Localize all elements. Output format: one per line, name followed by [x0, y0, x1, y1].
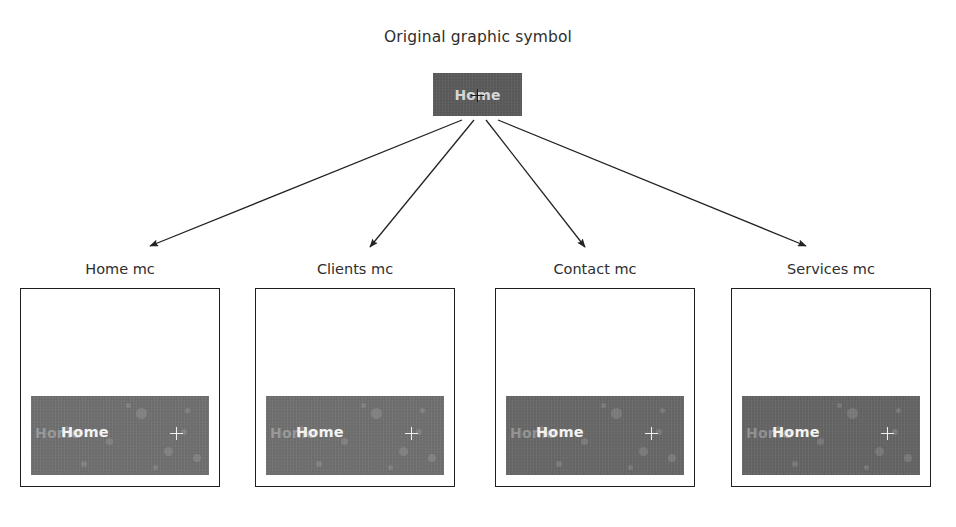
bubble-decoration: [136, 408, 147, 419]
bubble-decoration: [371, 408, 382, 419]
instance-panel-clients-mc[interactable]: Home Home: [255, 288, 455, 487]
crosshair-icon: [170, 427, 183, 440]
bubble-decoration: [153, 465, 158, 470]
bubble-decoration: [896, 408, 901, 413]
bubble-decoration: [81, 461, 87, 467]
bubble-decoration: [601, 403, 606, 408]
arrow-to-services-mc: [498, 120, 806, 246]
bubble-decoration: [399, 447, 408, 456]
band-label: Home: [61, 424, 109, 440]
bubble-decoration: [792, 461, 798, 467]
instance-label-home-mc: Home mc: [20, 261, 220, 277]
crosshair-icon: [881, 427, 894, 440]
page-title: Original graphic symbol: [0, 28, 956, 46]
panel-band: Home Home: [31, 396, 209, 475]
bubble-decoration: [126, 403, 131, 408]
bubble-decoration: [847, 408, 858, 419]
bubble-decoration: [875, 447, 884, 456]
bubble-decoration: [193, 454, 201, 462]
bubble-decoration: [556, 461, 562, 467]
bubble-decoration: [164, 447, 173, 456]
bubble-decoration: [904, 454, 912, 462]
bubble-decoration: [185, 408, 190, 413]
instance-label-services-mc: Services mc: [731, 261, 931, 277]
bubble-decoration: [660, 408, 665, 413]
bubble-decoration: [864, 465, 869, 470]
source-graphic-symbol[interactable]: Home: [433, 73, 522, 116]
panel-band: Home Home: [742, 396, 920, 475]
instance-panel-contact-mc[interactable]: Home Home: [495, 288, 695, 487]
panel-band: Home Home: [266, 396, 444, 475]
crosshair-icon: [471, 89, 484, 102]
crosshair-icon: [405, 427, 418, 440]
arrow-to-contact-mc: [486, 120, 585, 247]
bubble-decoration: [837, 403, 842, 408]
arrow-to-home-mc: [150, 120, 462, 246]
instance-label-contact-mc: Contact mc: [495, 261, 695, 277]
bubble-decoration: [668, 454, 676, 462]
band-label: Home: [296, 424, 344, 440]
instance-panel-services-mc[interactable]: Home Home: [731, 288, 931, 487]
instance-panel-home-mc[interactable]: Home Home: [20, 288, 220, 487]
instance-label-clients-mc: Clients mc: [255, 261, 455, 277]
bubble-decoration: [388, 465, 393, 470]
bubble-decoration: [428, 454, 436, 462]
bubble-decoration: [628, 465, 633, 470]
bubble-decoration: [420, 408, 425, 413]
panel-band: Home Home: [506, 396, 684, 475]
bubble-decoration: [639, 447, 648, 456]
bubble-decoration: [611, 408, 622, 419]
band-label: Home: [536, 424, 584, 440]
bubble-decoration: [361, 403, 366, 408]
bubble-decoration: [316, 461, 322, 467]
band-label: Home: [772, 424, 820, 440]
arrow-to-clients-mc: [370, 120, 474, 247]
crosshair-icon: [645, 427, 658, 440]
